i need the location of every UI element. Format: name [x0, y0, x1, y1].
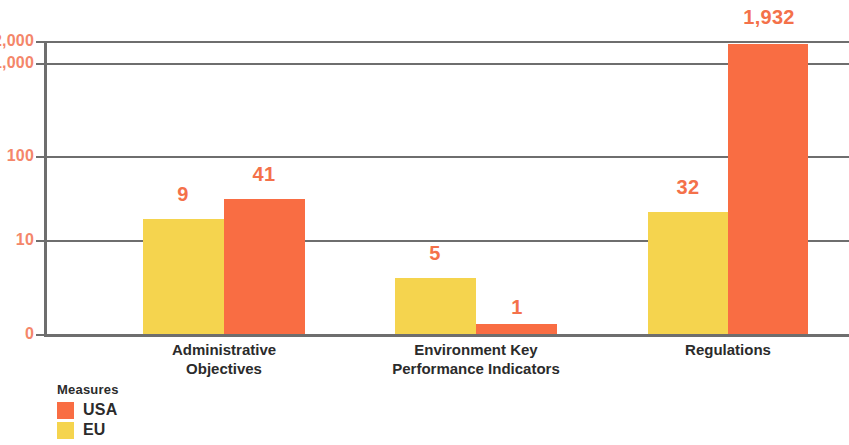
- gridline-baseline-0: [44, 334, 849, 337]
- value-label-eu-regulations: 32: [677, 176, 700, 199]
- x-axis-label-regulations: Regulations: [685, 341, 771, 360]
- legend-label-eu: EU: [83, 421, 106, 439]
- bar-eu-environment-kpi[interactable]: [395, 278, 476, 334]
- bar-usa-administrative-objectives[interactable]: [224, 199, 305, 334]
- value-label-usa-regulations: 1,932: [743, 6, 795, 29]
- legend-swatch-usa-icon: [57, 402, 74, 419]
- bar-eu-administrative-objectives[interactable]: [143, 219, 224, 334]
- legend-item-eu[interactable]: EU: [57, 421, 119, 439]
- legend-item-usa[interactable]: USA: [57, 401, 119, 419]
- bar-usa-regulations[interactable]: [728, 44, 808, 334]
- legend-swatch-eu-icon: [57, 422, 74, 439]
- bar-chart: 2,000 1,000 100 10 0 9 41 5 1 32 1,932 A…: [0, 0, 849, 445]
- bar-eu-regulations[interactable]: [648, 212, 728, 334]
- value-label-usa-environment-kpi: 1: [511, 296, 522, 319]
- bar-usa-environment-kpi[interactable]: [476, 324, 557, 334]
- tick-0: [36, 334, 52, 336]
- value-label-usa-administrative-objectives: 41: [253, 163, 276, 186]
- bars-layer: [0, 0, 849, 334]
- value-label-eu-administrative-objectives: 9: [177, 183, 188, 206]
- x-axis-label-administrative-objectives: Administrative Objectives: [172, 341, 276, 379]
- x-axis-label-environment-kpi: Environment Key Performance Indicators: [392, 341, 560, 379]
- legend: Measures USA EU: [57, 382, 119, 441]
- legend-label-usa: USA: [83, 401, 117, 419]
- value-label-eu-environment-kpi: 5: [429, 242, 440, 265]
- legend-title: Measures: [57, 382, 119, 397]
